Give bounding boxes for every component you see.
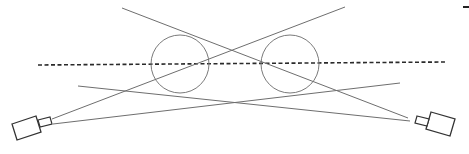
camera-left-lens [38, 117, 52, 127]
object-circle-right [261, 35, 319, 93]
camera-left-icon [12, 116, 52, 140]
camera-right-icon [415, 112, 455, 136]
corner-mark [463, 6, 469, 8]
diagram-canvas [0, 0, 469, 154]
object-circle-left [151, 35, 209, 93]
camera-left-body [12, 116, 41, 140]
diagram-svg [0, 0, 469, 154]
dashed-axis-line [38, 62, 445, 65]
sight-ray-c [78, 86, 410, 121]
camera-right-lens [415, 116, 429, 126]
camera-right-body [426, 112, 455, 136]
